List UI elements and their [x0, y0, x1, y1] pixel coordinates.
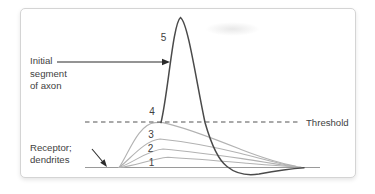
axon-arrowhead-icon [162, 59, 170, 66]
figure-canvas: Initial segment of axon Receptor; dendri… [0, 0, 375, 194]
receptor-label-line1: Receptor; [30, 142, 72, 153]
curve-number-5: 5 [161, 32, 167, 43]
initial-segment-label-line3: of axon [30, 80, 61, 91]
receptor-label-line2: dendrites [30, 154, 70, 165]
initial-segment-label-line1: Initial [30, 55, 52, 66]
curve-number-1: 1 [149, 157, 155, 168]
curve-number-3: 3 [148, 129, 154, 140]
potential-diagram: Initial segment of axon Receptor; dendri… [0, 0, 375, 194]
receptor-arrow-line [92, 149, 103, 162]
curve-number-4: 4 [149, 106, 155, 117]
curve-number-2: 2 [148, 143, 154, 154]
initial-segment-label-line2: segment [30, 68, 67, 79]
threshold-label: Threshold [306, 117, 349, 128]
